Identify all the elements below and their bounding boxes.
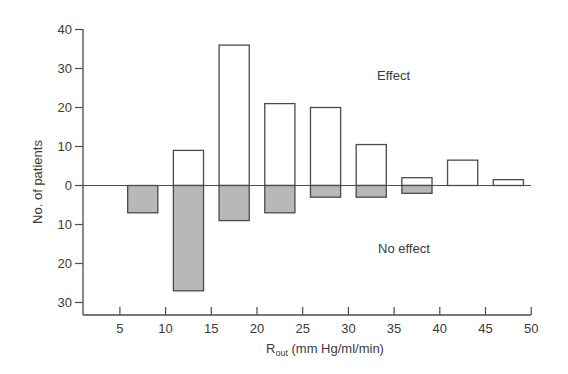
y-tick-label: 20 (58, 256, 72, 271)
effect-bar (448, 160, 478, 185)
effect-bar (310, 108, 340, 186)
x-label-unit: (mm Hg/ml/min) (288, 341, 384, 356)
no-effect-bar (356, 186, 386, 198)
x-tick-label: 20 (250, 321, 264, 336)
x-tick-label: 35 (387, 321, 401, 336)
y-tick-label: 30 (58, 295, 72, 310)
no-effect-bar (128, 186, 158, 213)
effect-bar (173, 150, 203, 185)
no-effect-annotation: No effect (378, 241, 430, 256)
x-tick-label: 30 (341, 321, 355, 336)
x-axis-label: Rout (mm Hg/ml/min) (266, 341, 384, 358)
effect-annotation: Effect (377, 68, 410, 83)
no-effect-bar (173, 186, 203, 291)
no-effect-bar (402, 186, 432, 194)
y-tick-label: 10 (58, 139, 72, 154)
y-tick-label: 0 (65, 178, 72, 193)
x-tick-label: 10 (158, 321, 172, 336)
x-tick-label: 40 (433, 321, 447, 336)
x-tick-label: 45 (478, 321, 492, 336)
effect-bar (265, 104, 295, 186)
histogram-chart: 0102030401020305101520253035404550No. of… (0, 0, 568, 374)
no-effect-bar (310, 186, 340, 198)
effect-bar (402, 178, 432, 186)
y-tick-label: 10 (58, 217, 72, 232)
y-axis-label: No. of patients (30, 140, 45, 224)
x-tick-label: 50 (524, 321, 538, 336)
no-effect-bar (219, 186, 249, 221)
x-label-main: R (266, 341, 275, 356)
effect-bar (356, 145, 386, 186)
effect-bar (493, 180, 523, 186)
y-tick-label: 30 (58, 61, 72, 76)
x-tick-label: 25 (295, 321, 309, 336)
effect-bar (219, 45, 249, 185)
y-tick-label: 40 (58, 22, 72, 37)
no-effect-bar (265, 186, 295, 213)
x-tick-label: 5 (116, 321, 123, 336)
y-tick-label: 20 (58, 100, 72, 115)
x-tick-label: 15 (204, 321, 218, 336)
x-label-subscript: out (275, 348, 288, 358)
